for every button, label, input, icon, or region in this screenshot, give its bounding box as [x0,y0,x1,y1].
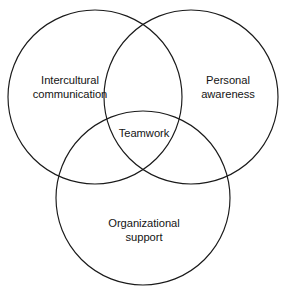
label-personal-awareness: Personal awareness [176,73,280,101]
label-intercultural-communication: Intercultural communication [14,73,126,101]
label-organizational-support: Organizational support [84,216,204,244]
label-teamwork: Teamwork [99,126,189,140]
venn-circles-group [0,0,286,294]
venn-diagram: Intercultural communication Personal awa… [0,0,286,294]
